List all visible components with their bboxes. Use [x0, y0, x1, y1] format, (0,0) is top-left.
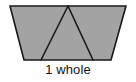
fraction-figure: 1 whole: [0, 0, 136, 82]
trapezoid-fill: [10, 6, 126, 60]
trapezoid-diagram: [0, 0, 136, 64]
figure-caption: 1 whole: [0, 62, 136, 78]
